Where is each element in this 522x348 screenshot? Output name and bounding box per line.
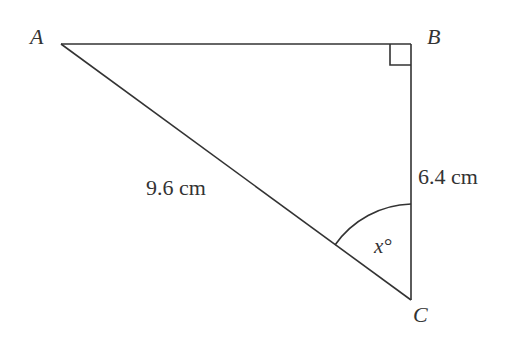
side-label-ac: 9.6 cm: [146, 175, 206, 200]
side-ac: [61, 44, 411, 300]
side-label-bc: 6.4 cm: [418, 164, 478, 189]
triangle-diagram: A B C 9.6 cm 6.4 cm x°: [0, 0, 522, 348]
angle-arc-c: [335, 204, 411, 245]
vertex-label-a: A: [28, 24, 44, 49]
vertex-label-c: C: [413, 302, 428, 327]
right-angle-marker: [390, 44, 411, 65]
angle-label-x: x°: [373, 234, 392, 258]
vertex-label-b: B: [427, 24, 440, 49]
